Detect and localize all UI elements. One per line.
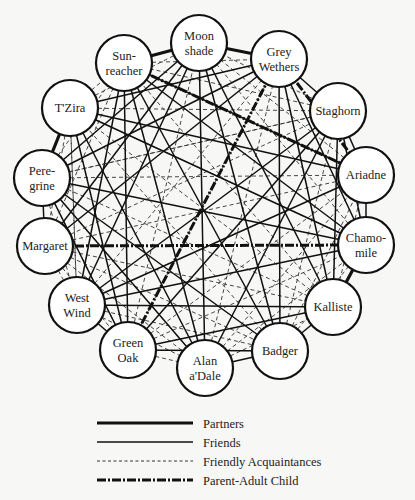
legend-item-friends: Friends [97, 436, 241, 450]
edge-friends-badger-greywethers [279, 59, 280, 351]
node-label: shade [185, 44, 214, 58]
node-label: Grey [267, 45, 293, 59]
node-label: Ariadne [346, 168, 387, 182]
node-label: Badger [262, 344, 299, 358]
legend-item-acquaintances: Friendly Acquaintances [97, 455, 322, 469]
node-greenoak: GreenOak [100, 322, 156, 378]
node-badger: Badger [252, 323, 308, 379]
node-label: Oak [118, 351, 140, 365]
node-alanadale: Alana'Dale [177, 340, 233, 396]
node-label: Staghorn [315, 104, 361, 118]
node-margaret: Margaret [17, 218, 73, 274]
node-label: Alan [193, 354, 218, 368]
node-label: a'Dale [189, 369, 221, 383]
node-westwind: WestWind [49, 277, 105, 333]
node-label: West [65, 291, 90, 305]
node-label: Moon [184, 29, 215, 43]
node-label: Wethers [259, 60, 300, 74]
node-ariadne: Ariadne [338, 147, 394, 203]
legend-label-friends: Friends [203, 436, 241, 450]
node-greywethers: GreyWethers [251, 31, 307, 87]
edge-friends-westwind-kalliste [77, 305, 333, 307]
node-label: Margaret [22, 239, 68, 253]
legend-item-parent-child: Parent-Adult Child [97, 474, 299, 488]
edge-acquaintances-peregrine-ariadne [42, 175, 366, 178]
node-sunreacher: Sun-reacher [96, 35, 152, 91]
node-label: Pere- [29, 164, 55, 178]
edge-acquaintances-tzira-staghorn [70, 108, 338, 111]
node-staghorn: Staghorn [310, 83, 366, 139]
node-chamomile: Chamo-mile [338, 217, 394, 273]
network-graph: MoonshadeSun-reacherGreyWethersT'ZiraSta… [0, 0, 415, 500]
edge-parent-child-margaret-chamomile [45, 245, 366, 246]
legend-item-partners: Partners [97, 417, 244, 431]
node-label: mile [355, 246, 378, 260]
node-tzira: T'Zira [42, 80, 98, 136]
legend-label-acquaintances: Friendly Acquaintances [203, 455, 322, 469]
relationship-diagram: MoonshadeSun-reacherGreyWethersT'ZiraSta… [0, 0, 415, 500]
node-peregrine: Pere-grine [14, 150, 70, 206]
legend-label-parent-child: Parent-Adult Child [203, 474, 299, 488]
node-label: T'Zira [55, 101, 86, 115]
node-moonshade: Moonshade [171, 15, 227, 71]
node-label: Wind [63, 306, 91, 320]
legend: Partners Friends Friendly Acquaintances … [97, 417, 322, 488]
legend-label-partners: Partners [203, 417, 244, 431]
node-label: Sun- [112, 49, 136, 63]
node-label: Green [113, 336, 144, 350]
node-label: grine [29, 179, 55, 193]
node-label: Kalliste [314, 300, 353, 314]
node-label: Chamo- [346, 231, 386, 245]
node-label: reacher [106, 64, 144, 78]
node-kalliste: Kalliste [305, 279, 361, 335]
